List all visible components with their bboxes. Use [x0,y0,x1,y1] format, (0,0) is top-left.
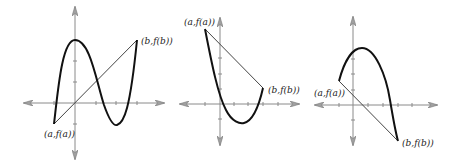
secant-line [54,40,137,124]
secant-line [205,29,263,88]
graph-3: (a,f(a)) (b,f(b)) [314,17,437,148]
secant-line [339,81,398,141]
graph-2: (a,f(a)) (b,f(b)) [180,17,300,145]
label-b: (b,f(b)) [141,36,173,46]
axis-ticks [339,59,412,120]
label-a: (a,f(a)) [314,88,345,98]
function-curve [339,48,398,141]
function-curve [205,29,263,123]
figure: (a,f(a)) (b,f(b)) (a,f(a)) (b,f(b)) [0,0,456,165]
label-b: (b,f(b)) [268,85,300,95]
label-a: (a,f(a)) [44,129,75,139]
graph-1: (a,f(a)) (b,f(b)) [24,7,173,159]
label-a: (a,f(a)) [184,17,215,27]
label-b: (b,f(b)) [402,138,434,148]
